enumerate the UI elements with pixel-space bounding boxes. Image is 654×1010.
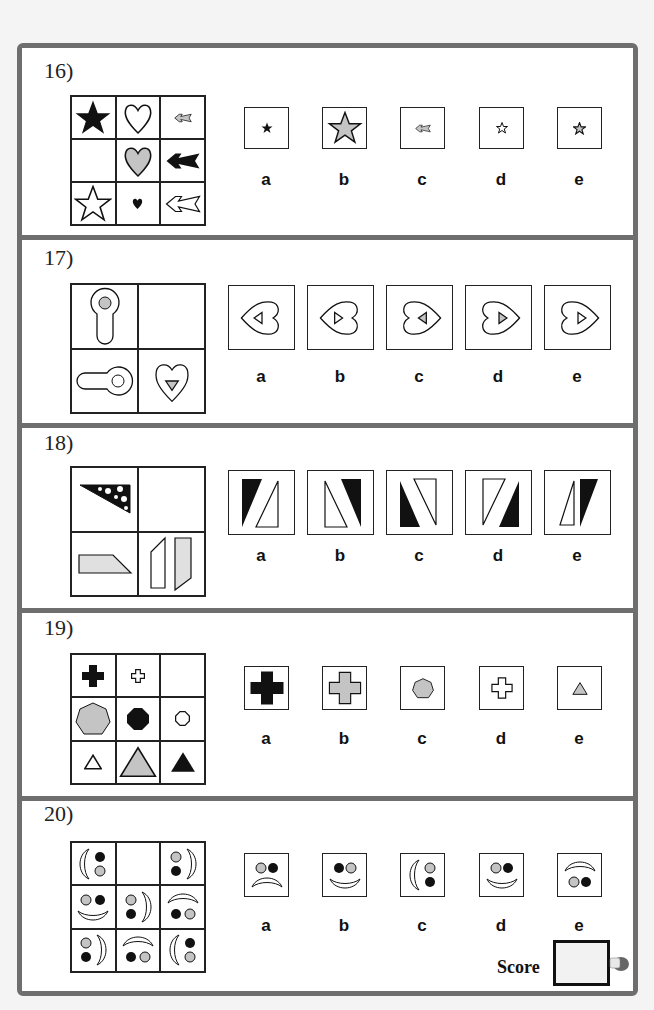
empty-cell[interactable] xyxy=(138,284,205,349)
white-octagon-icon xyxy=(160,697,205,740)
option-c[interactable] xyxy=(400,666,445,710)
option-label-d: d xyxy=(481,729,521,749)
option-c[interactable] xyxy=(400,107,445,149)
option-label-a: a xyxy=(241,367,281,387)
option-label-c: c xyxy=(402,170,442,190)
gray-heart-icon xyxy=(116,139,161,182)
option-d[interactable] xyxy=(479,666,524,710)
spotted-triangle-icon xyxy=(71,467,138,532)
empty-cell[interactable] xyxy=(116,842,161,885)
keyhole-icon xyxy=(71,284,138,349)
puzzle-matrix xyxy=(70,95,206,226)
question-number: 16) xyxy=(44,58,73,84)
option-a[interactable] xyxy=(244,107,289,149)
option-a[interactable] xyxy=(228,470,295,535)
empty-cell[interactable] xyxy=(138,467,205,532)
question-19: 19) a b c d e xyxy=(22,613,633,796)
face-right-icon xyxy=(160,842,205,885)
option-label-e: e xyxy=(559,729,599,749)
empty-cell[interactable] xyxy=(71,139,116,182)
score-label: Score xyxy=(497,957,540,978)
puzzle-matrix xyxy=(70,653,206,785)
option-c[interactable] xyxy=(386,470,453,535)
gray-triangle-icon xyxy=(116,741,161,784)
option-label-c: c xyxy=(402,729,442,749)
black-arrow-icon xyxy=(160,139,205,182)
option-e[interactable] xyxy=(544,285,611,350)
option-label-b: b xyxy=(324,170,364,190)
split-parallelograms-icon xyxy=(138,532,205,597)
puzzle-matrix xyxy=(70,466,206,597)
heart-icon xyxy=(116,96,161,139)
puzzle-matrix xyxy=(70,841,206,973)
option-label-c: c xyxy=(399,546,439,566)
option-label-a: a xyxy=(246,170,286,190)
option-label-b: b xyxy=(324,729,364,749)
score-box[interactable] xyxy=(553,940,610,986)
option-e[interactable] xyxy=(557,853,602,897)
textured-trapezoid-icon xyxy=(71,532,138,597)
option-label-a: a xyxy=(241,546,281,566)
option-label-e: e xyxy=(557,546,597,566)
black-cross-icon xyxy=(71,654,116,697)
face-frown-icon xyxy=(116,929,161,972)
face-right-icon xyxy=(116,885,161,928)
pencil-hand-icon xyxy=(608,953,630,975)
option-label-d: d xyxy=(478,367,518,387)
question-number: 18) xyxy=(44,430,73,456)
option-b[interactable] xyxy=(307,285,374,350)
option-label-b: b xyxy=(320,546,360,566)
arrow-icon xyxy=(160,96,205,139)
option-b[interactable] xyxy=(322,853,367,897)
black-triangle-icon xyxy=(160,741,205,784)
empty-cell[interactable] xyxy=(160,654,205,697)
face-smile-icon xyxy=(71,885,116,928)
question-number: 20) xyxy=(44,801,73,827)
question-18: 18) a b c d e xyxy=(22,428,633,608)
face-right-icon xyxy=(71,929,116,972)
gray-heptagon-icon xyxy=(71,697,116,740)
option-e[interactable] xyxy=(544,470,611,535)
keyhole-icon xyxy=(71,349,138,414)
option-e[interactable] xyxy=(557,666,602,710)
option-d[interactable] xyxy=(479,853,524,897)
option-label-b: b xyxy=(320,367,360,387)
small-heart-icon xyxy=(116,182,161,225)
option-label-d: d xyxy=(481,916,521,936)
option-a[interactable] xyxy=(244,666,289,710)
option-label-e: e xyxy=(559,170,599,190)
option-d[interactable] xyxy=(479,107,524,149)
option-d[interactable] xyxy=(465,470,532,535)
face-frown-icon xyxy=(160,885,205,928)
option-label-c: c xyxy=(402,916,442,936)
option-label-c: c xyxy=(399,367,439,387)
option-e[interactable] xyxy=(557,107,602,149)
black-octagon-icon xyxy=(116,697,161,740)
option-label-a: a xyxy=(246,729,286,749)
question-number: 19) xyxy=(44,615,73,641)
option-c[interactable] xyxy=(400,853,445,897)
worksheet-frame: 16) a b c d e 17) xyxy=(17,43,638,996)
option-a[interactable] xyxy=(244,853,289,897)
option-b[interactable] xyxy=(322,666,367,710)
option-d[interactable] xyxy=(465,285,532,350)
option-label-b: b xyxy=(324,916,364,936)
heart-icon xyxy=(138,349,205,414)
white-arrow-icon xyxy=(160,182,205,225)
face-left-icon xyxy=(160,929,205,972)
option-b[interactable] xyxy=(322,107,367,149)
option-label-e: e xyxy=(559,916,599,936)
question-number: 17) xyxy=(44,245,73,271)
puzzle-matrix xyxy=(70,283,206,414)
option-label-e: e xyxy=(557,367,597,387)
question-16: 16) a b c d e xyxy=(22,48,633,235)
question-17: 17) a b c d e xyxy=(22,240,633,423)
question-20: 20) a b c d e Score xyxy=(22,801,633,991)
option-b[interactable] xyxy=(307,470,374,535)
black-star-icon xyxy=(71,96,116,139)
option-label-a: a xyxy=(246,916,286,936)
white-cross-icon xyxy=(116,654,161,697)
option-c[interactable] xyxy=(386,285,453,350)
option-a[interactable] xyxy=(228,285,295,350)
option-label-d: d xyxy=(478,546,518,566)
